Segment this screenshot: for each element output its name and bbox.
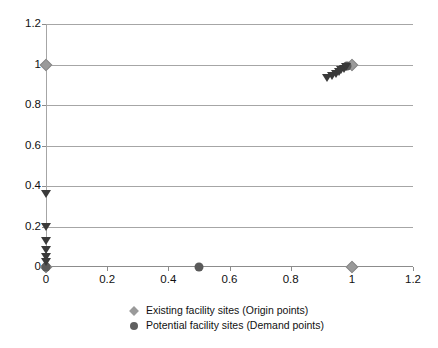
- data-point-diamond-0-0: [40, 58, 53, 71]
- x-tick-label-0: 0: [43, 274, 49, 286]
- gridline-y-1: [46, 227, 413, 228]
- legend-item-1[interactable]: Potential facility sites (Demand points): [0, 318, 438, 333]
- x-axis-tick-labels: 00.20.40.60.811.2: [46, 274, 413, 290]
- x-tick-3: [230, 267, 231, 271]
- legend-item-0[interactable]: Existing facility sites (Origin points): [0, 303, 438, 318]
- x-tick-6: [413, 267, 414, 271]
- data-point-triangle-2-1: [41, 223, 51, 231]
- data-point-diamond-0-1: [345, 261, 358, 274]
- y-tick-label-6: 1.2: [25, 18, 41, 30]
- y-axis-tick-labels: 00.20.40.60.811.2: [0, 24, 41, 267]
- gridline-y-3: [46, 146, 413, 147]
- legend-diamond-icon: [128, 305, 140, 317]
- x-tick-4: [291, 267, 292, 271]
- data-point-circle-1-1: [194, 263, 203, 272]
- y-tick-2: [42, 186, 46, 187]
- legend-circle-icon: [128, 320, 140, 332]
- x-tick-label-6: 1.2: [405, 274, 421, 286]
- x-tick-label-3: 0.6: [222, 274, 238, 286]
- scatter-chart: 00.20.40.60.811.2 00.20.40.60.811.2 Exis…: [0, 0, 438, 348]
- gridline-y-4: [46, 105, 413, 106]
- gridline-y-2: [46, 186, 413, 187]
- data-point-triangle-2-0: [41, 190, 51, 198]
- data-point-triangle-2-2: [41, 237, 51, 245]
- legend-marker-glyph: [129, 306, 139, 316]
- y-tick-label-1: 0.2: [25, 221, 41, 233]
- gridline-y-6: [46, 24, 413, 25]
- y-tick-6: [42, 24, 46, 25]
- x-tick-label-4: 0.8: [283, 274, 299, 286]
- y-tick-4: [42, 105, 46, 106]
- legend-item-label: Existing facility sites (Origin points): [146, 305, 308, 316]
- data-point-triangle-2-5: [41, 258, 51, 266]
- x-tick-label-5: 1: [349, 274, 355, 286]
- data-point-triangle-2-12: [341, 63, 351, 71]
- x-tick-1: [107, 267, 108, 271]
- chart-legend: Existing facility sites (Origin points)P…: [0, 303, 438, 333]
- y-tick-label-4: 0.8: [25, 99, 41, 111]
- y-tick-3: [42, 146, 46, 147]
- legend-item-label: Potential facility sites (Demand points): [146, 320, 324, 331]
- x-tick-label-2: 0.4: [160, 274, 176, 286]
- y-tick-label-2: 0.4: [25, 180, 41, 192]
- x-tick-2: [168, 267, 169, 271]
- y-tick-label-3: 0.6: [25, 140, 41, 152]
- legend-marker-glyph: [130, 322, 138, 330]
- x-tick-label-1: 0.2: [99, 274, 115, 286]
- plot-area: [46, 24, 413, 267]
